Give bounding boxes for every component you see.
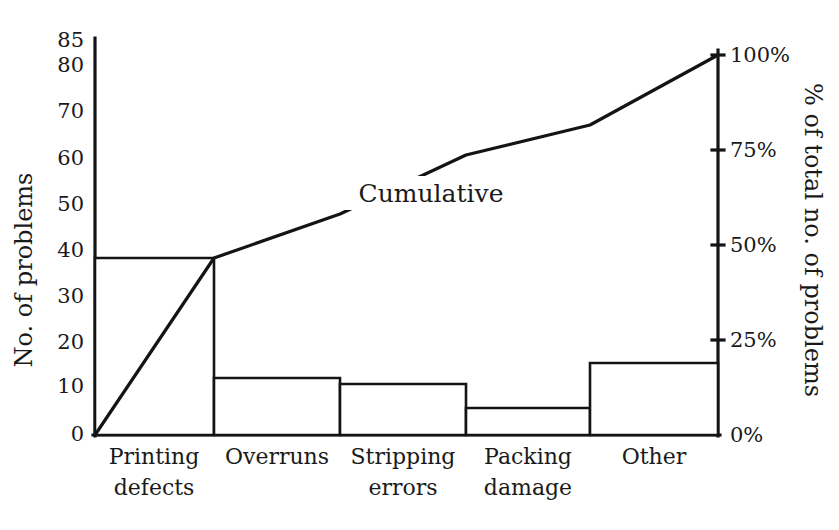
left-tick-label-50: 50 <box>57 192 84 216</box>
category-label-overruns: Overruns <box>225 444 329 469</box>
right-tick-label-100: 100% <box>730 43 790 67</box>
category-label-other: Other <box>622 444 687 469</box>
left-tick-label-10: 10 <box>57 374 84 398</box>
category-label-printing-defects-line1: Printing <box>109 444 200 469</box>
category-label-stripping-errors-line1: Stripping <box>351 444 456 469</box>
left-tick-label-30: 30 <box>57 284 84 308</box>
category-label-packing-damage-line2: damage <box>484 475 572 500</box>
chart-canvas: 85 80 70 60 50 40 30 20 10 0 100% 75% 50… <box>0 0 839 530</box>
right-tick-label-50: 50% <box>730 233 777 257</box>
bar-other <box>590 363 718 435</box>
bar-stripping-errors <box>340 384 466 435</box>
cumulative-line-label: Cumulative <box>359 179 504 208</box>
category-label-printing-defects-line2: defects <box>114 475 195 500</box>
left-tick-label-85: 85 <box>57 28 84 52</box>
left-axis-title: No. of problems <box>10 173 38 368</box>
left-tick-label-80: 80 <box>57 53 84 77</box>
right-tick-label-25: 25% <box>730 328 777 352</box>
category-label-stripping-errors-line2: errors <box>368 475 437 500</box>
right-tick-label-75: 75% <box>730 138 777 162</box>
left-tick-label-0: 0 <box>71 422 84 446</box>
bar-packing-damage <box>466 408 590 435</box>
left-tick-label-20: 20 <box>57 330 84 354</box>
left-tick-label-40: 40 <box>57 238 84 262</box>
right-tick-label-0: 0% <box>730 423 763 447</box>
pareto-chart: 85 80 70 60 50 40 30 20 10 0 100% 75% 50… <box>0 0 839 530</box>
right-axis-title: % of total no. of problems <box>799 83 827 397</box>
left-tick-label-60: 60 <box>57 146 84 170</box>
left-tick-label-70: 70 <box>57 99 84 123</box>
bar-overruns <box>214 378 340 435</box>
category-label-packing-damage-line1: Packing <box>484 444 572 469</box>
